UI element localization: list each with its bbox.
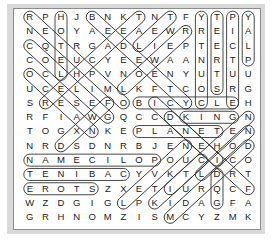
grid-letter[interactable]: D — [162, 110, 178, 124]
grid-letter[interactable]: K — [100, 124, 116, 138]
grid-letter[interactable]: R — [38, 210, 54, 224]
grid-letter[interactable]: I — [147, 96, 163, 110]
grid-letter[interactable]: E — [116, 24, 132, 38]
grid-letter[interactable]: P — [240, 53, 256, 67]
grid-letter[interactable]: R — [38, 96, 54, 110]
grid-letter[interactable]: L — [147, 124, 163, 138]
grid-letter[interactable]: X — [69, 124, 85, 138]
grid-letter[interactable]: E — [131, 53, 147, 67]
grid-letter[interactable]: A — [162, 124, 178, 138]
grid-letter[interactable]: C — [147, 110, 163, 124]
grid-letter[interactable]: V — [100, 67, 116, 81]
grid-letter[interactable]: S — [22, 96, 38, 110]
grid-letter[interactable]: G — [225, 110, 241, 124]
grid-letter[interactable]: C — [194, 96, 210, 110]
grid-letter[interactable]: U — [178, 153, 194, 167]
grid-letter[interactable]: N — [178, 124, 194, 138]
grid-letter[interactable]: N — [69, 210, 85, 224]
grid-letter[interactable]: N — [162, 67, 178, 81]
grid-letter[interactable]: T — [147, 182, 163, 196]
grid-letter[interactable]: U — [225, 67, 241, 81]
grid-letter[interactable]: U — [240, 67, 256, 81]
grid-letter[interactable]: S — [69, 96, 85, 110]
grid-letter[interactable]: G — [100, 110, 116, 124]
grid-letter[interactable]: Y — [178, 67, 194, 81]
grid-letter[interactable]: T — [225, 53, 241, 67]
grid-letter[interactable]: N — [22, 153, 38, 167]
grid-letter[interactable]: F — [225, 196, 241, 210]
grid-letter[interactable]: C — [116, 167, 132, 181]
grid-letter[interactable]: K — [162, 167, 178, 181]
grid-letter[interactable]: T — [209, 10, 225, 24]
grid-letter[interactable]: E — [147, 24, 163, 38]
grid-letter[interactable]: C — [225, 182, 241, 196]
grid-letter[interactable]: L — [53, 67, 69, 81]
grid-letter[interactable]: D — [84, 139, 100, 153]
grid-letter[interactable]: C — [38, 82, 54, 96]
grid-letter[interactable]: M — [100, 82, 116, 96]
grid-letter[interactable]: K — [116, 10, 132, 24]
grid-letter[interactable]: D — [53, 139, 69, 153]
grid-letter[interactable]: A — [194, 196, 210, 210]
grid-letter[interactable]: E — [147, 67, 163, 81]
grid-letter[interactable]: O — [131, 153, 147, 167]
grid-letter[interactable]: C — [84, 53, 100, 67]
grid-letter[interactable]: A — [162, 53, 178, 67]
grid-letter[interactable]: A — [240, 24, 256, 38]
grid-letter[interactable]: T — [69, 182, 85, 196]
grid-letter[interactable]: Z — [209, 210, 225, 224]
grid-letter[interactable]: F — [178, 10, 194, 24]
grid-letter[interactable]: R — [194, 24, 210, 38]
grid-letter[interactable]: K — [131, 82, 147, 96]
grid-letter[interactable]: K — [147, 196, 163, 210]
grid-letter[interactable]: H — [53, 10, 69, 24]
grid-letter[interactable]: N — [22, 139, 38, 153]
grid-letter[interactable]: M — [53, 153, 69, 167]
grid-letter[interactable]: E — [69, 153, 85, 167]
grid-letter[interactable]: U — [194, 67, 210, 81]
grid-letter[interactable]: M — [225, 210, 241, 224]
grid-letter[interactable]: Y — [194, 210, 210, 224]
grid-letter[interactable]: P — [225, 10, 241, 24]
grid-letter[interactable]: A — [131, 24, 147, 38]
grid-letter[interactable]: R — [225, 167, 241, 181]
grid-letter[interactable]: T — [178, 167, 194, 181]
grid-letter[interactable]: E — [194, 139, 210, 153]
grid-letter[interactable]: E — [162, 139, 178, 153]
grid-letter[interactable]: C — [131, 110, 147, 124]
grid-letter[interactable]: C — [178, 82, 194, 96]
grid-letter[interactable]: I — [84, 82, 100, 96]
grid-letter[interactable]: E — [225, 96, 241, 110]
grid-letter[interactable]: R — [22, 110, 38, 124]
grid-letter[interactable]: O — [38, 53, 54, 67]
grid-letter[interactable]: E — [100, 24, 116, 38]
grid-letter[interactable]: B — [84, 167, 100, 181]
grid-letter[interactable]: T — [22, 124, 38, 138]
grid-letter[interactable]: F — [147, 82, 163, 96]
grid-letter[interactable]: Z — [116, 210, 132, 224]
grid-letter[interactable]: A — [240, 196, 256, 210]
grid-letter[interactable]: U — [22, 82, 38, 96]
grid-letter[interactable]: I — [147, 39, 163, 53]
grid-letter[interactable]: C — [225, 39, 241, 53]
grid-letter[interactable]: L — [69, 82, 85, 96]
grid-letter[interactable]: R — [38, 139, 54, 153]
grid-letter[interactable]: I — [84, 196, 100, 210]
grid-letter[interactable]: N — [194, 53, 210, 67]
grid-letter[interactable]: N — [53, 167, 69, 181]
grid-letter[interactable]: P — [131, 196, 147, 210]
grid-letter[interactable]: U — [69, 53, 85, 67]
grid-letter[interactable]: K — [178, 110, 194, 124]
grid-letter[interactable]: C — [178, 210, 194, 224]
grid-letter[interactable]: Y — [194, 10, 210, 24]
grid-letter[interactable]: I — [131, 210, 147, 224]
grid-letter[interactable]: O — [162, 153, 178, 167]
grid-letter[interactable]: D — [53, 196, 69, 210]
grid-letter[interactable]: Y — [178, 96, 194, 110]
grid-letter[interactable]: I — [225, 24, 241, 38]
grid-letter[interactable]: R — [116, 139, 132, 153]
grid-letter[interactable]: H — [209, 139, 225, 153]
grid-letter[interactable]: I — [100, 153, 116, 167]
grid-letter[interactable]: P — [131, 124, 147, 138]
grid-letter[interactable]: O — [194, 82, 210, 96]
